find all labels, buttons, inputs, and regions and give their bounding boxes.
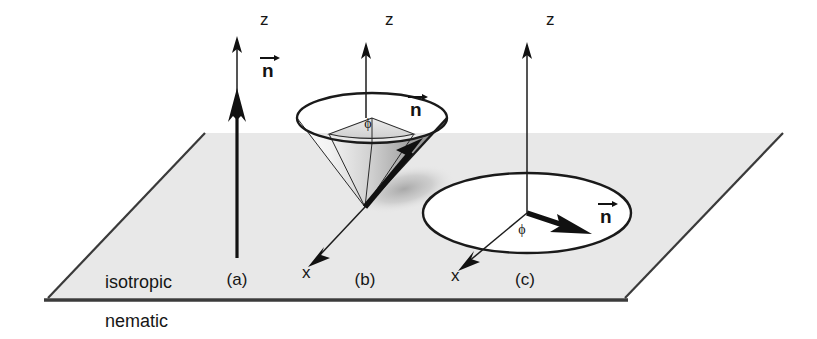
- panel-b-caption: (b): [355, 270, 376, 289]
- nematic-phase-label: nematic: [105, 311, 168, 331]
- panel-c-phi-label: ϕ: [518, 222, 525, 237]
- panel-b-x-axis-label: x: [302, 263, 311, 282]
- panel-c-z-axis-label: z: [546, 10, 555, 29]
- figure-root: z n (a): [0, 0, 817, 339]
- panel-a-director-bar-arrowhead: [274, 55, 280, 61]
- liquid-crystal-anchoring-diagram: z n (a): [0, 0, 817, 339]
- panel-a-director-label-group: n: [260, 55, 280, 81]
- panel-b-director-label: n: [410, 99, 422, 120]
- isotropic-phase-label: isotropic: [105, 272, 172, 292]
- panel-c-director-label: n: [600, 206, 612, 227]
- panel-b-phi-label: ϕ: [364, 116, 371, 131]
- panel-c-x-axis-label: x: [451, 266, 460, 285]
- panel-a-caption: (a): [227, 270, 248, 289]
- panel-a-z-axis-label: z: [260, 10, 269, 29]
- panel-b-z-axis-label: z: [385, 10, 394, 29]
- panel-b-director-label-group: n: [408, 94, 428, 120]
- panel-c-caption: (c): [515, 270, 535, 289]
- panel-a-director-label: n: [262, 60, 274, 81]
